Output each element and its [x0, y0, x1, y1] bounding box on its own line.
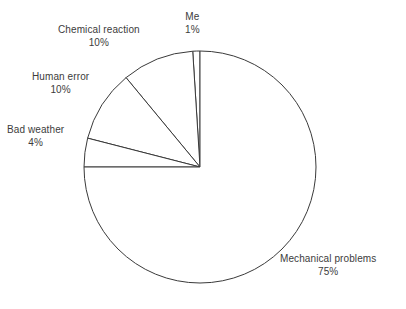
slice-label-value: 1% — [185, 23, 200, 36]
slice-label-mechanical-problems: Mechanical problems 75% — [280, 252, 376, 278]
slice-label-human-error: Human error 10% — [32, 70, 89, 96]
slice-label-name: Me — [185, 10, 200, 23]
slice-label-value: 10% — [32, 83, 89, 96]
slice-label-name: Human error — [32, 70, 89, 83]
pie-chart-figure: Chemical reaction 10% Me 1% Human error … — [0, 0, 406, 309]
slice-label-name: Mechanical problems — [280, 252, 376, 265]
slice-label-value: 75% — [280, 265, 376, 278]
pie-slices-group — [84, 51, 316, 283]
slice-label-name: Bad weather — [7, 123, 64, 136]
slice-label-bad-weather: Bad weather 4% — [7, 123, 64, 149]
slice-label-value: 4% — [7, 136, 64, 149]
slice-label-value: 10% — [58, 36, 140, 49]
slice-label-name: Chemical reaction — [58, 23, 140, 36]
slice-label-chemical-reaction: Chemical reaction 10% — [58, 23, 140, 49]
slice-label-me: Me 1% — [185, 10, 200, 36]
